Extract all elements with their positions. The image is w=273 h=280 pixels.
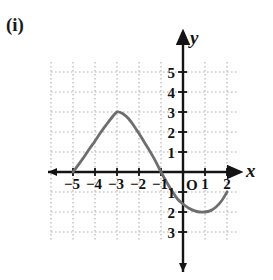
y-tick-label: 2: [168, 125, 176, 141]
x-tick-label: −4: [86, 176, 103, 192]
x-tick-label: 2: [223, 176, 231, 192]
x-tick-labels: −5−4−3−2−112: [64, 176, 231, 192]
x-axis-left-arrowhead: [48, 168, 57, 176]
x-tick-label: −3: [108, 176, 124, 192]
y-axis-down-arrowhead: [179, 263, 187, 272]
grid-horizontal-lines: [51, 72, 238, 232]
y-tick-label: 3: [168, 225, 176, 241]
x-tick-label: −5: [64, 176, 80, 192]
graph-figure: −5−4−3−2−112 54321123 O x y: [0, 0, 273, 280]
function-curve: [73, 112, 227, 212]
origin-label: O: [186, 177, 198, 193]
y-tick-label: 2: [168, 205, 176, 221]
y-tick-label: 3: [168, 105, 176, 121]
x-axis-label: x: [245, 160, 256, 181]
x-tick-label: −2: [130, 176, 146, 192]
y-tick-label: 1: [168, 185, 176, 201]
y-tick-label: 4: [168, 85, 176, 101]
y-tick-label: 5: [168, 65, 176, 81]
y-tick-label: 1: [168, 145, 176, 161]
x-tick-label: 1: [201, 176, 209, 192]
y-axis-label: y: [188, 27, 199, 48]
y-tick-labels: 54321123: [168, 65, 176, 241]
x-tick-label: −1: [152, 176, 168, 192]
